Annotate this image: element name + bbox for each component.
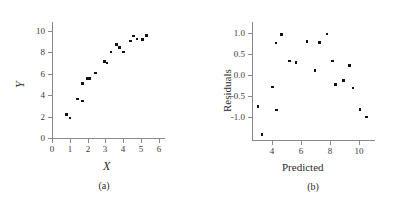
data-point [81,100,84,103]
data-point [110,51,113,54]
data-point [88,77,91,80]
x-axis-tick [70,139,71,143]
data-point [261,133,264,136]
y-axis-tick [248,96,252,97]
y-axis-tick [248,117,252,118]
y-axis-tick-label: 1.0 [219,29,245,38]
data-point [348,64,351,67]
data-point [359,108,362,111]
y-axis-tick-label: -1.0 [219,113,245,122]
data-point [295,61,298,64]
data-point [106,62,109,65]
y-axis-tick-label: 0.5 [219,50,245,59]
data-point [280,33,283,36]
x-axis-tick [123,139,124,143]
data-point [306,40,309,43]
panel-a: 02468100123456 Y X (a) [0,0,206,204]
data-point [334,83,337,86]
y-axis-tick-label: 0 [19,134,45,143]
x-axis-tick-label: 8 [317,147,343,156]
data-point [342,79,345,82]
x-axis-tick [272,141,273,145]
x-axis-tick [159,139,160,143]
scatter-plot-x-vs-y: 02468100123456 [52,22,164,138]
data-point [352,87,355,90]
x-axis-tick-label: 10 [346,147,372,156]
data-point [288,60,291,63]
x-axis-tick [52,139,53,143]
data-point [141,38,144,41]
data-point [271,86,274,89]
y-axis-line [52,22,53,139]
y-axis-tick-label: 10 [19,27,45,36]
y-axis-tick [48,95,52,96]
data-point [76,98,79,101]
y-axis-tick [48,117,52,118]
x-axis-tick-label: 6 [146,145,172,154]
y-axis-tick-label: 4 [19,91,45,100]
x-axis-tick [88,139,89,143]
data-point [136,38,139,41]
x-axis-tick [359,141,360,145]
y-axis-tick-label: 2 [19,113,45,122]
y-axis-tick [48,31,52,32]
data-point [81,82,84,85]
figure-container: 02468100123456 Y X (a) 1.00.50.0-0.5-1.0… [0,0,412,204]
y-axis-line [252,22,253,141]
data-point [318,41,321,44]
panel-b: 1.00.50.0-0.5-1.046810 Residuals Predict… [206,0,412,204]
y-axis-title: Y [14,81,26,88]
data-point [94,72,97,75]
data-point [118,46,121,49]
data-point [275,109,278,112]
data-point [365,116,368,119]
data-point [326,33,329,36]
x-axis-tick-label: 4 [259,147,285,156]
y-axis-tick [48,74,52,75]
x-axis-tick [105,139,106,143]
data-point [65,113,68,116]
y-axis-title: Residuals [222,69,233,112]
data-point [122,51,125,54]
data-point [257,105,260,108]
y-axis-tick [248,54,252,55]
y-axis-tick-label: 6 [19,70,45,79]
x-axis-title: Predicted [282,162,324,173]
data-point [275,42,278,45]
x-axis-line [52,138,165,139]
data-point [129,40,132,43]
x-axis-title: X [103,160,110,172]
panel-caption-a: (a) [88,180,120,191]
x-axis-tick [141,139,142,143]
data-point [331,60,334,63]
x-axis-tick-label: 6 [288,147,314,156]
data-point [69,117,72,120]
y-axis-tick-label: 8 [19,48,45,57]
data-point [314,69,317,72]
y-axis-tick [248,33,252,34]
y-axis-tick [248,75,252,76]
y-axis-tick [48,52,52,53]
scatter-plot-residuals-vs-predicted: 1.00.50.0-0.5-1.046810 [252,22,374,140]
data-point [145,34,148,37]
panel-caption-b: (b) [297,181,329,192]
data-point [132,35,135,38]
x-axis-line [252,140,375,141]
x-axis-tick [301,141,302,145]
x-axis-tick [330,141,331,145]
